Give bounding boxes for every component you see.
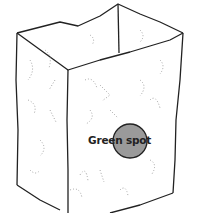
bag-right-edge xyxy=(173,33,183,193)
bag-drawing xyxy=(0,0,215,213)
bag-bottom-left xyxy=(17,185,60,210)
bag-left-edge xyxy=(16,33,18,185)
paper-bag-illustration: Green spot xyxy=(0,0,215,213)
bag-front-edge xyxy=(67,70,68,213)
bag-bottom-right xyxy=(110,193,173,213)
bag-inner-corner xyxy=(118,4,119,53)
green-spot-label: Green spot xyxy=(88,134,151,146)
bag-back-rim xyxy=(17,4,183,33)
bag-front-rim xyxy=(17,33,183,70)
